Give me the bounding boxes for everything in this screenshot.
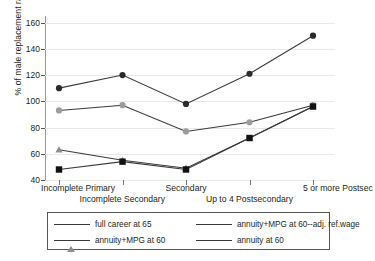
data-point-marker bbox=[119, 72, 125, 78]
legend-line bbox=[196, 224, 232, 225]
data-point-marker bbox=[310, 33, 316, 39]
legend-label: annuity+MPG at 60--adj. ref.wage bbox=[237, 220, 360, 229]
y-tick-mark bbox=[41, 180, 45, 181]
axes: 406080100120140160 bbox=[45, 16, 335, 180]
data-point-marker bbox=[56, 166, 62, 172]
legend-line bbox=[196, 240, 232, 241]
plot-area: % of male replacement rates at 65 406080… bbox=[0, 0, 375, 200]
legend-item[interactable]: annuity+MPG at 60--adj. ref.wage bbox=[196, 217, 360, 231]
x-tick-label: Incomplete Secondary bbox=[80, 194, 166, 204]
series-line bbox=[59, 36, 313, 104]
y-tick-label: 80 bbox=[31, 123, 40, 132]
x-tick-label: Incomplete Primary bbox=[41, 183, 115, 193]
triangle-marker-icon bbox=[67, 237, 75, 252]
series-line bbox=[59, 105, 313, 131]
legend-item[interactable]: annuity+MPG at 60 bbox=[54, 233, 165, 247]
data-point-marker bbox=[310, 103, 316, 109]
y-tick-label: 140 bbox=[26, 45, 40, 54]
legend-label: full career at 65 bbox=[95, 220, 151, 229]
x-tick-label: Secondary bbox=[166, 183, 207, 193]
legend-item[interactable]: full career at 65 bbox=[54, 217, 151, 231]
chart-figure: % of male replacement rates at 65 406080… bbox=[0, 0, 375, 261]
legend-label: annuity+MPG at 60 bbox=[95, 236, 165, 245]
series-plot bbox=[45, 16, 335, 180]
y-tick-label: 60 bbox=[31, 150, 40, 159]
data-point-marker bbox=[56, 107, 62, 113]
x-axis-tick-labels: Incomplete PrimaryIncomplete SecondarySe… bbox=[0, 183, 375, 209]
x-tick-label: Up to 4 Postsecondary bbox=[206, 194, 293, 204]
data-point-marker bbox=[56, 85, 62, 91]
chart-legend: full career at 65annuity+MPG at 60--adj.… bbox=[47, 212, 330, 250]
gridline bbox=[45, 180, 335, 181]
legend-item[interactable]: annuity at 60 bbox=[196, 233, 284, 247]
data-point-marker bbox=[119, 158, 125, 164]
data-point-marker bbox=[55, 146, 62, 152]
data-point-marker bbox=[119, 102, 125, 108]
data-point-marker bbox=[183, 166, 189, 172]
legend-line bbox=[54, 224, 90, 225]
y-tick-label: 100 bbox=[26, 97, 40, 106]
legend-swatch bbox=[54, 219, 90, 229]
data-point-marker bbox=[183, 101, 189, 107]
y-axis-label: % of male replacement rates at 65 bbox=[13, 0, 23, 109]
x-tick-label: 5 or more Postsec bbox=[303, 183, 373, 193]
legend-marker-icon bbox=[68, 237, 75, 246]
legend-swatch bbox=[196, 219, 232, 229]
data-point-marker bbox=[246, 135, 252, 141]
data-point-marker bbox=[183, 128, 189, 134]
data-point-marker bbox=[246, 119, 252, 125]
data-point-marker bbox=[246, 71, 252, 77]
legend-label: annuity at 60 bbox=[237, 236, 284, 245]
y-tick-label: 160 bbox=[26, 18, 40, 27]
legend-swatch bbox=[196, 235, 232, 245]
legend-swatch bbox=[54, 235, 90, 245]
y-tick-label: 120 bbox=[26, 71, 40, 80]
